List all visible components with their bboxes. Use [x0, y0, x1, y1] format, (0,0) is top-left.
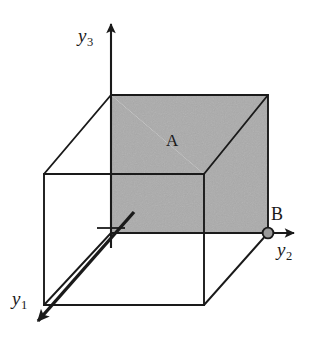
shaded-region-a-fill [111, 95, 268, 233]
y-one-axis-label: y1 [12, 289, 27, 311]
edge-depth-top-left [44, 95, 111, 174]
y-two-axis-label: y2 [277, 240, 292, 262]
shaded-region-a-label: A [166, 132, 178, 149]
point-b-marker [263, 228, 274, 239]
y-three-axis-label: y3 [78, 26, 93, 48]
point-b-label: B [271, 205, 283, 223]
cube-diagram [0, 0, 311, 348]
edge-depth-bottom-left [44, 233, 111, 305]
figure-canvas: y3 y2 y1 B A [0, 0, 311, 348]
edge-depth-bottom-right [204, 233, 268, 305]
